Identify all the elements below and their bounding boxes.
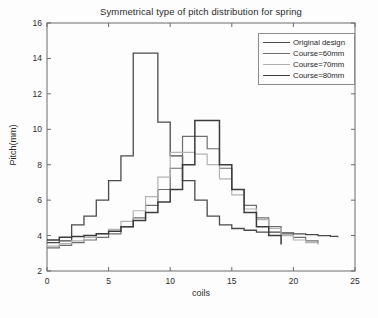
y-tick-label: 4: [21, 231, 42, 241]
y-axis-label: Pitch(mm): [8, 110, 18, 180]
y-tick-label: 10: [21, 124, 42, 134]
x-axis-label: coils: [47, 288, 355, 298]
legend-swatch-course-60mm: [263, 53, 290, 54]
y-tick-label: 8: [21, 160, 42, 170]
legend-item: Course=60mm: [261, 48, 351, 59]
x-tick-label: 5: [106, 276, 111, 286]
legend-item: Course=80mm: [261, 70, 351, 81]
legend-swatch-original-design: [263, 42, 290, 43]
legend-item: Original design: [261, 37, 351, 48]
y-tick-label: 14: [21, 53, 42, 63]
legend-label: Course=70mm: [293, 60, 344, 70]
x-tick-label: 25: [350, 276, 359, 286]
x-tick-label: 20: [289, 276, 298, 286]
x-tick-label: 10: [165, 276, 174, 286]
legend-label: Course=80mm: [293, 71, 344, 81]
x-tick-label: 0: [45, 276, 50, 286]
chart-figure: Symmetrical type of pitch distribution f…: [0, 0, 378, 318]
y-tick-label: 6: [21, 195, 42, 205]
legend-label: Original design: [293, 38, 345, 48]
y-tick-label: 16: [21, 18, 42, 28]
y-tick-label: 12: [21, 89, 42, 99]
legend-swatch-course-70mm: [263, 64, 290, 65]
legend-swatch-course-80mm: [263, 75, 290, 76]
series-line-3: [47, 120, 281, 244]
chart-legend: Original design Course=60mm Course=70mm …: [258, 33, 355, 85]
legend-label: Course=60mm: [293, 49, 344, 59]
legend-item: Course=70mm: [261, 59, 351, 70]
x-tick-label: 15: [227, 276, 236, 286]
y-tick-label: 2: [21, 266, 42, 276]
series-line-1: [47, 136, 318, 248]
